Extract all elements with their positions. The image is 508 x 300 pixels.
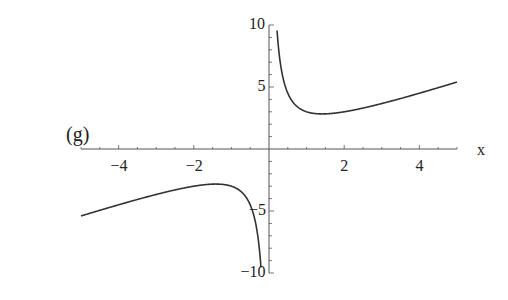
function-plot — [0, 0, 508, 300]
y-tick-label: 10 — [249, 16, 265, 32]
x-tick-label: 2 — [340, 158, 348, 174]
y-tick-label: −5 — [249, 202, 266, 218]
y-tick-label: −10 — [241, 264, 266, 280]
curve-right-branch — [277, 30, 457, 113]
x-tick-label: 4 — [415, 158, 423, 174]
axes — [81, 25, 457, 273]
panel-label: (g) — [66, 124, 89, 144]
y-tick-label: 5 — [258, 78, 266, 94]
x-tick-label: −4 — [111, 158, 128, 174]
curve-left-branch — [81, 184, 261, 267]
x-axis-label: x — [477, 142, 485, 158]
x-tick-label: −2 — [186, 158, 203, 174]
